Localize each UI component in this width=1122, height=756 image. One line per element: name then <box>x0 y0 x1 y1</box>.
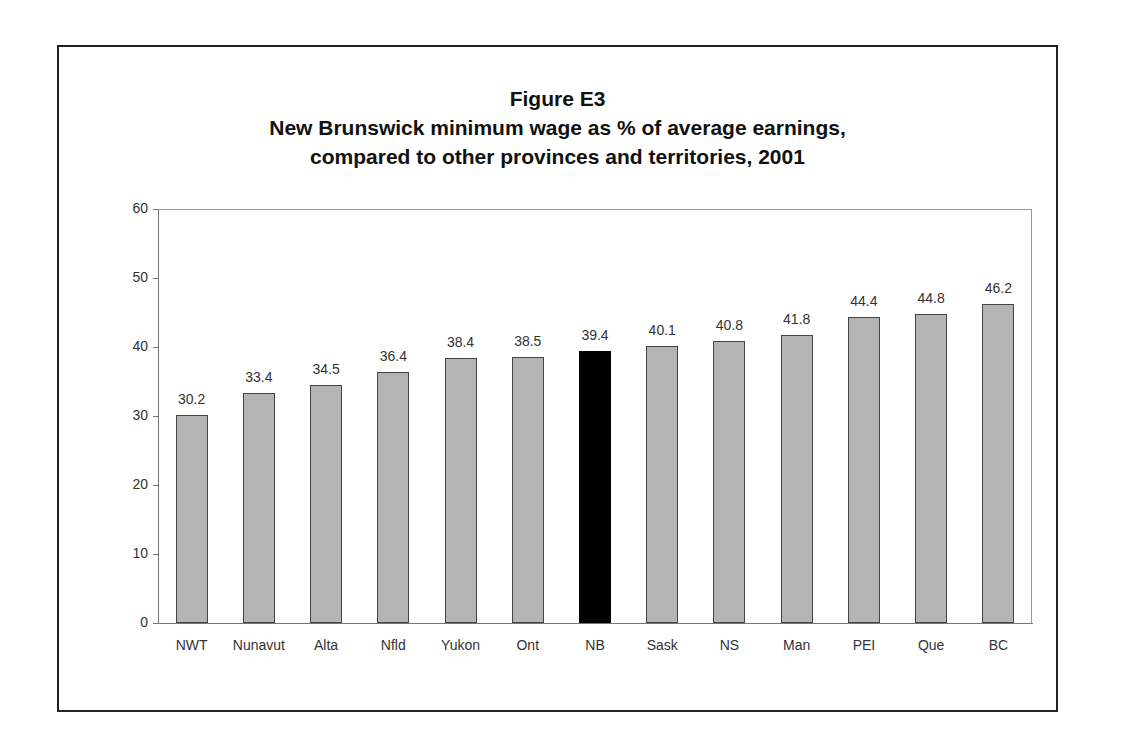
bar-que <box>915 314 947 623</box>
bar-yukon <box>445 358 477 623</box>
value-label: 30.2 <box>162 391 222 407</box>
value-label: 40.1 <box>632 322 692 338</box>
bar-alta <box>310 385 342 623</box>
bar-ns <box>713 341 745 623</box>
x-tick-label: BC <box>958 637 1038 653</box>
bar-pei <box>848 317 880 623</box>
y-tick-label: 40 <box>100 338 148 354</box>
y-tick <box>153 623 158 624</box>
y-tick <box>153 416 158 417</box>
y-tick-label: 10 <box>100 545 148 561</box>
bar-nunavut <box>243 393 275 623</box>
bar-bc <box>982 304 1014 623</box>
y-tick <box>153 209 158 210</box>
bar-ont <box>512 357 544 623</box>
y-tick <box>153 554 158 555</box>
value-label: 38.5 <box>498 333 558 349</box>
value-label: 44.8 <box>901 290 961 306</box>
chart-title-block: Figure E3 New Brunswick minimum wage as … <box>57 84 1058 171</box>
y-tick-label: 60 <box>100 200 148 216</box>
chart-title-line-1: New Brunswick minimum wage as % of avera… <box>57 113 1058 142</box>
y-tick <box>153 347 158 348</box>
value-label: 41.8 <box>767 311 827 327</box>
y-tick <box>153 485 158 486</box>
bar-man <box>781 335 813 623</box>
value-label: 44.4 <box>834 293 894 309</box>
y-tick-label: 0 <box>100 614 148 630</box>
x-axis <box>153 623 1033 624</box>
value-label: 34.5 <box>296 361 356 377</box>
value-label: 38.4 <box>431 334 491 350</box>
chart-title-line-2: compared to other provinces and territor… <box>57 142 1058 171</box>
value-label: 46.2 <box>968 280 1028 296</box>
bar-nfld <box>377 372 409 623</box>
y-tick-label: 20 <box>100 476 148 492</box>
value-label: 39.4 <box>565 327 625 343</box>
value-label: 36.4 <box>363 348 423 364</box>
value-label: 40.8 <box>699 317 759 333</box>
value-label: 33.4 <box>229 369 289 385</box>
bar-sask <box>646 346 678 623</box>
bar-nb <box>579 351 611 623</box>
y-tick-label: 30 <box>100 407 148 423</box>
y-axis <box>158 209 159 624</box>
figure-label: Figure E3 <box>57 84 1058 113</box>
bar-nwt <box>176 415 208 623</box>
y-tick <box>153 278 158 279</box>
y-tick-label: 50 <box>100 269 148 285</box>
